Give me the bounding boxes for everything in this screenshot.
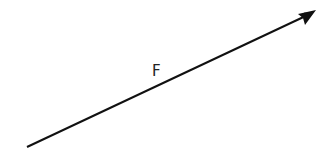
force-vector-arrow [27,13,312,147]
force-label: F [152,62,161,80]
vector-diagram: F [0,0,334,148]
